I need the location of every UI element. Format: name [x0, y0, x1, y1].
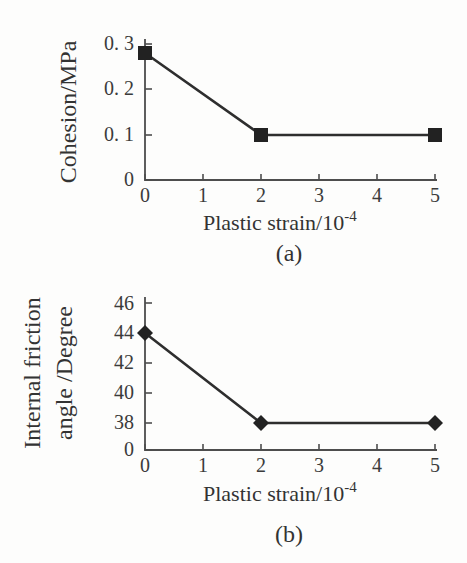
x-tick-label: 1: [198, 454, 208, 476]
axes-b: [145, 297, 437, 450]
x-tick-label: 2: [256, 184, 266, 206]
x-tick-label: 5: [430, 184, 440, 206]
y-tick-label: 42: [114, 351, 134, 373]
data-point-marker: [138, 46, 152, 60]
data-point-marker: [254, 128, 268, 142]
x-axis-label-b: Plastic strain/10-4: [203, 479, 357, 506]
data-point-marker: [428, 128, 442, 142]
y-axis-label-b-line2: angle /Degree: [51, 306, 77, 440]
x-tick-label: 4: [372, 184, 382, 206]
caption-a: (a): [276, 240, 303, 266]
data-series-line: [145, 333, 435, 423]
data-point-marker: [427, 415, 443, 431]
y-axis-label-b-line1: Internal friction: [19, 297, 45, 448]
x-tick-label: 2: [256, 454, 266, 476]
y-tick-label: 38: [114, 411, 134, 433]
x-axis-label-a: Plastic strain/10-4: [203, 208, 357, 235]
x-tick-label: 3: [314, 454, 324, 476]
y-tick-label: 40: [114, 381, 134, 403]
y-tick-label: 44: [114, 321, 134, 343]
y-tick-label: 0. 3: [104, 32, 134, 54]
chart-a: 0 0. 1 0. 2 0. 3 0 1 2 3 4 5 Plastic str…: [55, 32, 442, 266]
figure: 0 0. 1 0. 2 0. 3 0 1 2 3 4 5 Plastic str…: [0, 0, 467, 563]
x-tick-label: 0: [140, 184, 150, 206]
caption-b: (b): [275, 521, 303, 547]
chart-b: 0 38 40 42 44 46 0 1 2 3 4 5 Plastic str…: [19, 292, 443, 547]
data-series-line: [145, 53, 435, 135]
y-tick-label: 0: [124, 438, 134, 460]
x-tick-label: 1: [198, 184, 208, 206]
y-tick-label: 0: [124, 168, 134, 190]
y-tick-label: 0. 2: [104, 77, 134, 99]
y-tick-label: 0. 1: [104, 123, 134, 145]
x-tick-label: 5: [430, 454, 440, 476]
figure-svg: 0 0. 1 0. 2 0. 3 0 1 2 3 4 5 Plastic str…: [0, 0, 467, 563]
y-tick-label: 46: [114, 292, 134, 314]
axes-a: [145, 39, 437, 180]
x-tick-label: 3: [314, 184, 324, 206]
x-tick-label: 0: [140, 454, 150, 476]
y-axis-label-a: Cohesion/MPa: [55, 40, 81, 183]
x-tick-label: 4: [372, 454, 382, 476]
